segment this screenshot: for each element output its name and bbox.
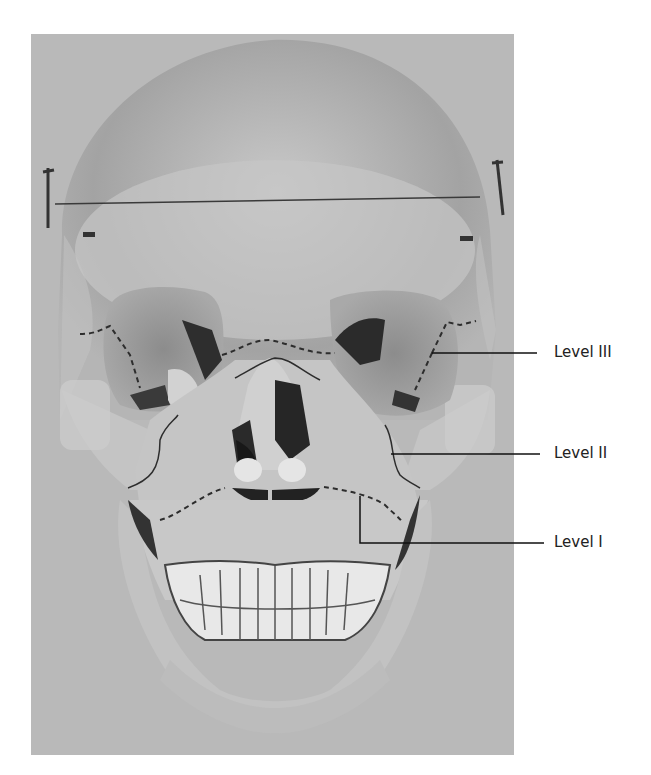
- label-level-i: Level I: [554, 535, 603, 550]
- label-level-ii: Level II: [554, 446, 607, 461]
- skull-diagram: [0, 0, 651, 775]
- label-level-iii: Level III: [554, 345, 612, 360]
